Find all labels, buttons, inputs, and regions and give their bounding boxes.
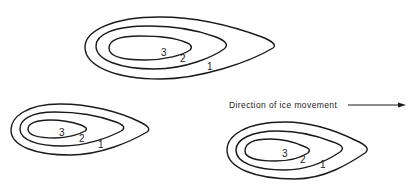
contour-label-2: 2 bbox=[300, 154, 306, 165]
contour-label-2: 2 bbox=[180, 53, 186, 64]
contour-label-3: 3 bbox=[161, 47, 167, 58]
contour-1 bbox=[11, 104, 149, 155]
contour-2 bbox=[236, 131, 342, 170]
drumlin-top: 3 2 1 bbox=[85, 17, 274, 79]
arrow-right-icon bbox=[398, 103, 406, 108]
contour-label-1: 1 bbox=[98, 139, 104, 150]
contour-label-1: 1 bbox=[320, 159, 326, 170]
contour-3 bbox=[28, 120, 86, 138]
drumlin-bottom-right: 3 2 1 bbox=[227, 122, 367, 179]
drumlin-contour-diagram: 3 2 1 3 2 1 3 2 1 Direction of ice movem… bbox=[0, 0, 415, 189]
contour-2 bbox=[20, 112, 124, 146]
contour-label-3: 3 bbox=[282, 148, 288, 159]
drumlin-bottom-left: 3 2 1 bbox=[11, 104, 149, 155]
contour-1 bbox=[85, 17, 274, 79]
contour-label-1: 1 bbox=[207, 61, 213, 72]
ice-direction-indicator: Direction of ice movement bbox=[229, 100, 406, 110]
contour-label-3: 3 bbox=[59, 127, 65, 138]
ice-direction-caption: Direction of ice movement bbox=[229, 100, 337, 110]
contour-1 bbox=[227, 122, 367, 179]
contour-label-2: 2 bbox=[79, 133, 85, 144]
